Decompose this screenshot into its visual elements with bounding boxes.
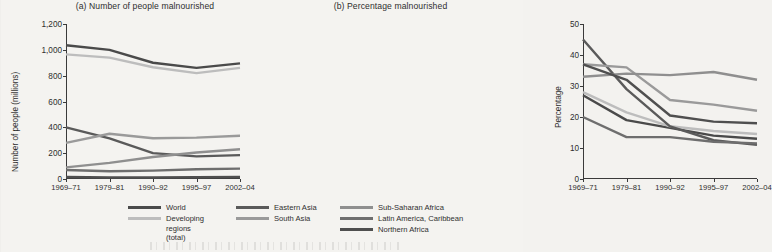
chart-legend: WorldDeveloping regions (total) Eastern …	[0, 200, 523, 240]
y-tick-label: 600	[48, 97, 62, 106]
chart-panel-a: (a) Number of people malnourished Number…	[0, 0, 262, 200]
series-line-latin-america-caribbean	[583, 117, 757, 143]
panel-b-series-layer	[583, 24, 757, 179]
x-tick-label: 2002–04	[742, 183, 772, 192]
legend-swatch	[340, 217, 373, 220]
chart-panel-b: (b) Percentage malnourished Percentage 0…	[258, 0, 523, 200]
legend-label: South Asia	[274, 214, 310, 224]
panel-a-title: (a) Number of people malnourished	[0, 1, 276, 11]
x-tick-label: 1995–97	[699, 183, 729, 192]
x-tick-label: 1969–71	[568, 183, 598, 192]
legend-label: Northern Africa	[378, 225, 429, 235]
legend-label: Eastern Asia	[274, 203, 317, 213]
x-tick-mark	[240, 179, 241, 182]
series-line-latin-america-caribbean	[66, 169, 240, 172]
y-tick-label: 1,200	[42, 20, 63, 29]
legend-item[interactable]: Sub-Saharan Africa	[340, 203, 463, 213]
x-tick-label: 1979–81	[612, 183, 642, 192]
x-tick-label: 1979–81	[95, 183, 125, 192]
legend-swatch	[236, 206, 269, 209]
x-tick-mark	[670, 179, 671, 182]
page-bleed-artifact	[150, 242, 400, 250]
x-tick-mark	[197, 179, 198, 182]
legend-item[interactable]: South Asia	[236, 214, 317, 224]
series-line-northern-africa	[66, 177, 240, 178]
panel-b-plot-area: 010203040501969–711979–811990–921995–972…	[583, 24, 757, 179]
y-tick-label: 20	[570, 113, 579, 122]
y-tick-label: 800	[48, 71, 62, 80]
legend-item[interactable]: Eastern Asia	[236, 203, 317, 213]
panel-a-series-layer	[66, 24, 240, 179]
legend-swatch	[340, 228, 373, 231]
x-tick-label: 1990–92	[138, 183, 168, 192]
legend-item[interactable]: World	[128, 203, 208, 213]
panel-b-title: (b) Percentage malnourished	[258, 1, 549, 11]
x-tick-mark	[110, 179, 111, 182]
legend-swatch	[340, 206, 373, 209]
x-tick-mark	[714, 179, 715, 182]
x-tick-mark	[66, 179, 67, 182]
series-line-northern-africa	[583, 64, 757, 123]
x-tick-label: 1969–71	[51, 183, 81, 192]
y-tick-label: 10	[570, 144, 579, 153]
legend-label: World	[166, 203, 186, 213]
legend-item[interactable]: Developing regions (total)	[128, 214, 208, 243]
legend-swatch	[128, 217, 161, 220]
legend-swatch	[128, 206, 161, 209]
y-tick-label: 50	[570, 20, 579, 29]
y-tick-label: 200	[48, 149, 62, 158]
x-tick-mark	[627, 179, 628, 182]
legend-item[interactable]: Northern Africa	[340, 225, 463, 235]
x-tick-mark	[153, 179, 154, 182]
legend-label: Latin America, Caribbean	[378, 214, 463, 224]
legend-swatch	[236, 217, 269, 220]
y-tick-label: 30	[570, 82, 579, 91]
panel-b-y-axis-label: Percentage	[554, 86, 563, 128]
legend-label: Sub-Saharan Africa	[378, 203, 444, 213]
x-tick-mark	[757, 179, 758, 182]
y-tick-label: 1,000	[42, 45, 63, 54]
x-tick-label: 1995–97	[182, 183, 212, 192]
legend-label: Developing regions (total)	[166, 214, 208, 243]
panel-a-y-axis-label: Number of people (millions)	[11, 72, 20, 172]
panel-a-plot-area: 02004006008001,0001,2001969–711979–81199…	[66, 24, 240, 179]
legend-column-3: Sub-Saharan AfricaLatin America, Caribbe…	[340, 203, 463, 236]
x-tick-mark	[583, 179, 584, 182]
y-tick-label: 400	[48, 123, 62, 132]
y-tick-label: 40	[570, 51, 579, 60]
legend-column-2: Eastern AsiaSouth Asia	[236, 203, 317, 225]
x-tick-label: 1990–92	[655, 183, 685, 192]
x-tick-label: 2002–04	[225, 183, 255, 192]
legend-column-1: WorldDeveloping regions (total)	[128, 203, 208, 244]
legend-item[interactable]: Latin America, Caribbean	[340, 214, 463, 224]
